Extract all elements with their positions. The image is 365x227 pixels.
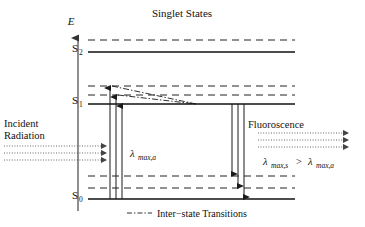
emission-comparison-operator: >: [296, 156, 302, 167]
emission-lambda-s-subscript: max,s: [271, 161, 288, 170]
label-s1-group: S 1: [72, 94, 83, 109]
absorption-lambda-symbol: λ: [129, 148, 135, 159]
label-s0-letter: S: [72, 189, 78, 201]
absorption-lambda-subscript: max,a: [138, 153, 156, 162]
label-s2-group: S 2: [72, 42, 83, 57]
emission-lambda-a-subscript: max,a: [316, 161, 334, 170]
incident-radiation-label-line2: Radiation: [4, 130, 46, 141]
diagram-canvas: Singlet States E S2 S 2 S 1 S 0: [0, 0, 365, 227]
fluorescence-label: Fluoroscence: [248, 119, 304, 130]
diagram-title: Singlet States: [152, 7, 212, 19]
fluorescence-rays: [258, 133, 348, 147]
emission-lambda-s-symbol: λ: [262, 156, 268, 167]
emission-arrows: [232, 104, 244, 197]
label-s2-letter: S: [72, 42, 78, 54]
label-s0-group: S 0: [72, 189, 83, 204]
jablonski-diagram: Singlet States E S2 S 2 S 1 S 0: [0, 0, 365, 227]
incident-radiation-rays: [4, 146, 106, 160]
label-s1-subscript: 1: [79, 100, 83, 109]
energy-axis-label: E: [67, 15, 75, 27]
label-s1-letter: S: [72, 94, 78, 106]
interstate-transition-2: [118, 95, 196, 104]
legend: Inter−state Transitions: [127, 208, 247, 219]
emission-lambda-a-symbol: λ: [307, 156, 313, 167]
incident-radiation-label-line1: Incident: [4, 118, 38, 129]
incident-radiation-label: Incident Radiation: [4, 118, 46, 141]
label-s0-subscript: 0: [79, 195, 83, 204]
emission-comparison-label: λ max,s > λ max,a: [262, 156, 334, 170]
legend-label: Inter−state Transitions: [157, 208, 247, 219]
label-s2-subscript: 2: [79, 48, 83, 57]
absorption-wavelength-label: λ max,a: [129, 148, 156, 162]
